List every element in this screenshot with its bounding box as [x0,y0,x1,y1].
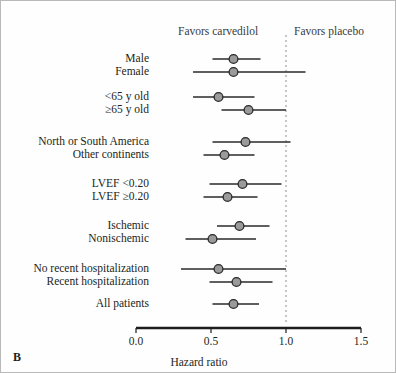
row-label: LVEF ≥0.20 [92,191,149,202]
x-axis-title: Hazard ratio [1,356,396,368]
x-tick-label: 1.5 [341,335,381,347]
favors-carvedilol-header: Favors carvedilol [178,25,258,37]
forest-plot-panel: Favors carvedilol Favors placebo MaleFem… [0,0,396,373]
row-label: ≥65 y old [105,104,149,115]
row-label: LVEF <0.20 [92,178,149,189]
row-label: <65 y old [105,91,149,102]
row-label: Other continents [73,149,149,160]
row-label: Ischemic [107,220,149,231]
favors-placebo-header: Favors placebo [294,25,364,37]
x-tick-label: 0.0 [116,335,156,347]
panel-letter-b: B [13,350,21,365]
x-tick-label: 1.0 [266,335,306,347]
row-label: North or South America [38,136,149,147]
row-label: No recent hospitalization [33,263,149,274]
row-label: Male [125,53,149,64]
row-label: Nonischemic [88,233,149,244]
forest-plot-svg [1,1,396,373]
row-label: Recent hospitalization [46,276,149,287]
x-tick-label: 0.5 [191,335,231,347]
row-label: Female [115,66,149,77]
row-label: All patients [96,298,149,309]
